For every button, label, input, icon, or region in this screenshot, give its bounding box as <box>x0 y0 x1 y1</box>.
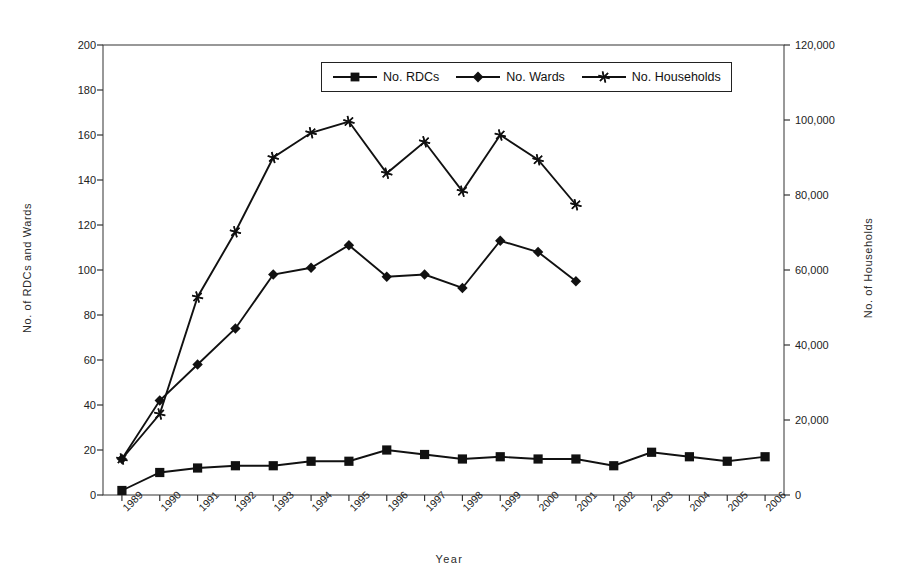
data-series-group <box>116 116 769 495</box>
square-marker-icon <box>458 454 467 463</box>
y-axis-left-tick-label: 20 <box>20 444 96 456</box>
diamond-marker-icon <box>455 69 501 85</box>
y-axis-left-tick-label: 80 <box>20 309 96 321</box>
asterisk-marker-icon <box>154 408 165 419</box>
square-marker-icon <box>332 69 378 85</box>
legend-item-no-wards[interactable]: No. Wards <box>455 69 565 85</box>
legend-item-no-rdcs[interactable]: No. RDCs <box>332 69 439 85</box>
y-axis-left-tick-label: 200 <box>20 39 96 51</box>
square-marker-icon <box>723 457 732 466</box>
square-marker-icon <box>382 445 391 454</box>
y-axis-right-tick-label: 0 <box>795 489 801 501</box>
series-no-rdcs <box>117 445 769 495</box>
y-axis-right-title: No. of Households <box>862 168 874 368</box>
y-axis-right-tick-label: 80,000 <box>795 189 829 201</box>
plot-frame <box>103 45 784 495</box>
y-axis-left-tick-label: 120 <box>20 219 96 231</box>
diamond-marker-icon <box>473 72 484 83</box>
y-axis-right-tick-label: 120,000 <box>795 39 835 51</box>
y-axis-left-tick-label: 160 <box>20 129 96 141</box>
y-axis-left-tick-label: 180 <box>20 84 96 96</box>
square-marker-icon <box>344 457 353 466</box>
legend-item-no-households[interactable]: No. Households <box>581 69 721 85</box>
square-marker-icon <box>117 486 126 495</box>
square-marker-icon <box>647 448 656 457</box>
diamond-marker-icon <box>419 269 429 279</box>
square-marker-icon <box>351 73 360 82</box>
square-marker-icon <box>155 468 164 477</box>
y-axis-left-tick-label: 100 <box>20 264 96 276</box>
x-axis-title: Year <box>0 553 899 565</box>
y-axis-left-tick-label: 60 <box>20 354 96 366</box>
series-line <box>122 122 576 460</box>
legend-item-label: No. Wards <box>506 70 565 84</box>
series-no-households <box>116 116 581 465</box>
chart-container: No. of RDCs and Wards No. of Households … <box>0 0 899 583</box>
square-marker-icon <box>193 463 202 472</box>
asterisk-marker-icon <box>306 127 317 138</box>
square-marker-icon <box>685 452 694 461</box>
series-line <box>122 450 765 491</box>
asterisk-marker-icon <box>230 226 241 237</box>
square-marker-icon <box>609 461 618 470</box>
y-axis-left-tick-label: 40 <box>20 399 96 411</box>
square-marker-icon <box>496 452 505 461</box>
asterisk-marker-icon <box>495 129 506 140</box>
chart-legend: No. RDCsNo. WardsNo. Households <box>321 62 732 92</box>
y-axis-right-tick-label: 100,000 <box>795 114 835 126</box>
diamond-marker-icon <box>306 263 316 273</box>
y-axis-right-tick-label: 20,000 <box>795 414 829 426</box>
square-marker-icon <box>533 454 542 463</box>
square-marker-icon <box>571 454 580 463</box>
axes-group <box>97 45 790 501</box>
y-axis-right-tick-label: 40,000 <box>795 339 829 351</box>
square-marker-icon <box>760 452 769 461</box>
square-marker-icon <box>306 457 315 466</box>
legend-item-label: No. RDCs <box>383 70 439 84</box>
square-marker-icon <box>231 461 240 470</box>
series-no-wards <box>117 236 581 465</box>
legend-item-label: No. Households <box>632 70 721 84</box>
asterisk-marker-icon <box>581 69 627 85</box>
y-axis-left-tick-label: 0 <box>20 489 96 501</box>
series-line <box>122 241 576 459</box>
square-marker-icon <box>420 450 429 459</box>
asterisk-marker-icon <box>268 152 279 163</box>
y-axis-right-tick-label: 60,000 <box>795 264 829 276</box>
square-marker-icon <box>269 461 278 470</box>
y-axis-left-tick-label: 140 <box>20 174 96 186</box>
asterisk-marker-icon <box>192 291 203 302</box>
